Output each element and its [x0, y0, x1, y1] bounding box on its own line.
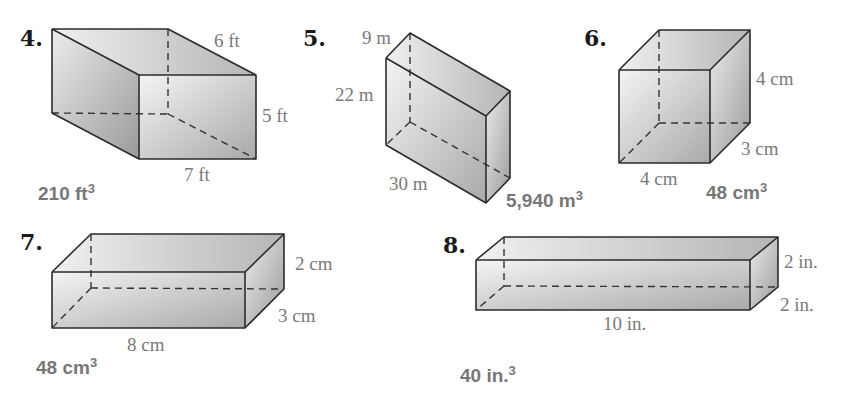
length-label-7: 8 cm [127, 334, 164, 356]
height-label-8: 2 in. [784, 251, 818, 273]
height-label-5: 22 m [335, 84, 374, 106]
problem-number-8: 8. [443, 232, 466, 258]
problem-number-4: 4. [20, 25, 43, 51]
answer-5: 5,940 m3 [506, 188, 583, 212]
height-label-6: 4 cm [756, 68, 793, 90]
answer-7: 48 cm3 [36, 355, 97, 379]
length-label-5: 30 m [389, 173, 428, 195]
prism-6 [619, 30, 750, 163]
answer-8: 40 in.3 [460, 363, 516, 387]
width-label-5: 9 m [362, 27, 391, 49]
width-label-7: 3 cm [278, 305, 315, 327]
height-label-4: 5 ft [262, 105, 288, 127]
problem-number-5: 5. [303, 25, 326, 51]
length-label-6: 4 cm [640, 168, 677, 190]
answer-4: 210 ft3 [38, 181, 95, 205]
length-label-8: 10 in. [603, 313, 646, 335]
width-label-4: 6 ft [214, 30, 240, 52]
prism-8 [476, 237, 778, 310]
answer-6: 48 cm3 [706, 180, 767, 204]
height-label-7: 2 cm [295, 253, 332, 275]
width-label-8: 2 in. [780, 294, 814, 316]
prism-7 [52, 234, 284, 328]
problem-number-6: 6. [584, 25, 607, 51]
length-label-4: 7 ft [184, 164, 210, 186]
problem-number-7: 7. [20, 229, 43, 255]
width-label-6: 3 cm [741, 138, 778, 160]
